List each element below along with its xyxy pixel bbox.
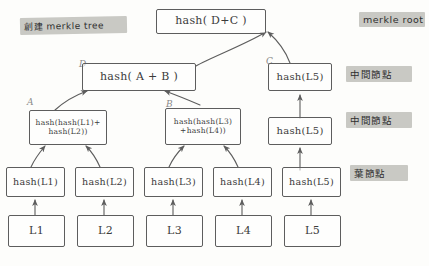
- leaf-hash-5: hash(L5): [282, 167, 341, 197]
- leaf-hash-4-label: hash(L4): [218, 177, 267, 188]
- corner-label-a: A: [27, 97, 34, 107]
- node-a-hash: hash(hash(L1)+ hash(L2)): [29, 110, 107, 145]
- leaf-hash-1-label: hash(L1): [11, 177, 60, 188]
- data-block-2: L2: [77, 215, 134, 247]
- node-merkle-root: hash( D+C ): [156, 9, 266, 34]
- data-block-5-label: L5: [303, 225, 322, 238]
- data-block-1-label: L1: [27, 225, 46, 238]
- side-note-intermediate-node-1: 中間節點: [346, 66, 412, 82]
- side-note-leaf-node: 葉節點: [350, 165, 408, 181]
- leaf-hash-3: hash(L3): [144, 167, 203, 197]
- node-a-hash-line2: hash(L2)): [46, 128, 89, 137]
- merkle-tree-diagram: 創建 merkle tree merkle root 中間節點 中間節點 葉節點…: [0, 0, 429, 266]
- leaf-hash-3-label: hash(L3): [149, 177, 198, 188]
- node-c-hash-top: hash(L5): [268, 63, 332, 91]
- node-c-hash-mid-label: hash(L5): [274, 125, 325, 137]
- data-block-5: L5: [284, 215, 341, 247]
- data-block-1: L1: [8, 215, 65, 247]
- data-block-4-label: L4: [234, 225, 253, 238]
- node-b-hash: hash(hash(L3) +hash(L4)): [165, 108, 241, 145]
- data-block-3: L3: [146, 215, 203, 247]
- leaf-hash-2: hash(L2): [75, 167, 134, 197]
- node-merkle-root-label: hash( D+C ): [173, 15, 249, 28]
- leaf-hash-1: hash(L1): [6, 167, 65, 197]
- leaf-hash-2-label: hash(L2): [80, 177, 129, 188]
- leaf-hash-5-label: hash(L5): [287, 177, 336, 188]
- title-note: 創建 merkle tree: [20, 16, 127, 35]
- node-hash-a-b-label: hash( A + B ): [98, 71, 180, 84]
- data-block-4: L4: [215, 215, 272, 247]
- node-c-hash-mid: hash(L5): [268, 117, 332, 145]
- leaf-hash-4: hash(L4): [213, 167, 272, 197]
- data-block-3-label: L3: [165, 225, 184, 238]
- side-note-merkle-root: merkle root: [359, 12, 425, 27]
- side-note-intermediate-node-2: 中間節點: [346, 112, 412, 128]
- node-hash-a-b: hash( A + B ): [82, 63, 196, 91]
- node-c-hash-top-label: hash(L5): [274, 71, 325, 83]
- node-b-hash-line2: +hash(L4)): [178, 127, 228, 136]
- data-block-2-label: L2: [96, 225, 115, 238]
